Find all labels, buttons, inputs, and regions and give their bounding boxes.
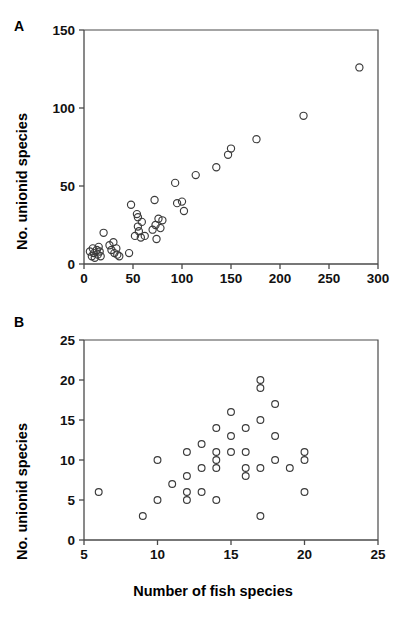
- data-point: [174, 200, 181, 207]
- data-point: [242, 425, 249, 432]
- data-point: [198, 489, 205, 496]
- data-point-group: [86, 64, 363, 262]
- data-point: [228, 409, 235, 416]
- data-point: [242, 465, 249, 472]
- data-point: [272, 401, 279, 408]
- data-point: [272, 457, 279, 464]
- y-tick-label: 25: [60, 333, 76, 348]
- x-tick-label: 250: [318, 271, 341, 286]
- y-tick-label: 20: [60, 373, 75, 388]
- panel-b-scatter-plot: 0510152025510152025: [0, 300, 406, 600]
- data-point: [169, 481, 176, 488]
- y-tick-label: 50: [60, 179, 75, 194]
- x-tick-label: 15: [223, 547, 239, 562]
- data-point: [151, 196, 158, 203]
- panel-a: A No. unionid species 050100150050100150…: [0, 0, 406, 300]
- y-tick-label: 15: [60, 413, 76, 428]
- y-tick-label: 0: [67, 533, 75, 548]
- x-tick-label: 0: [80, 271, 88, 286]
- plot-frame: [84, 30, 378, 264]
- panel-a-scatter-plot: 050100150050100150200250300: [0, 0, 406, 300]
- data-point: [356, 64, 363, 71]
- x-tick-label: 50: [125, 271, 140, 286]
- data-point: [300, 112, 307, 119]
- data-point: [153, 235, 160, 242]
- data-point: [139, 513, 146, 520]
- data-point: [127, 201, 134, 208]
- y-tick-label: 0: [67, 257, 75, 272]
- x-tick-label: 25: [370, 547, 386, 562]
- data-point: [184, 489, 191, 496]
- data-point: [242, 473, 249, 480]
- x-tick-label: 20: [297, 547, 312, 562]
- data-point: [301, 457, 308, 464]
- data-point: [242, 449, 249, 456]
- data-point: [272, 433, 279, 440]
- data-point: [198, 465, 205, 472]
- data-point: [154, 497, 161, 504]
- data-point: [138, 218, 145, 225]
- data-point: [180, 207, 187, 214]
- data-point: [228, 433, 235, 440]
- y-tick-label: 100: [52, 101, 75, 116]
- y-tick-label: 10: [60, 453, 75, 468]
- data-point: [257, 377, 264, 384]
- data-point: [100, 229, 107, 236]
- data-point: [95, 489, 102, 496]
- data-point: [227, 145, 234, 152]
- x-tick-label: 10: [150, 547, 165, 562]
- data-point: [213, 465, 220, 472]
- panel-b: B No. unionid species 051015202551015202…: [0, 300, 406, 619]
- data-point: [301, 449, 308, 456]
- x-axis-label: Number of fish species: [10, 583, 406, 599]
- data-point: [172, 179, 179, 186]
- x-tick-label: 100: [171, 271, 194, 286]
- data-point: [213, 457, 220, 464]
- x-tick-label: 5: [80, 547, 88, 562]
- data-point: [257, 513, 264, 520]
- data-point: [184, 473, 191, 480]
- data-point: [154, 457, 161, 464]
- data-point: [198, 441, 205, 448]
- data-point: [286, 465, 293, 472]
- data-point: [228, 449, 235, 456]
- plot-frame: [84, 340, 378, 540]
- data-point: [125, 249, 132, 256]
- data-point: [178, 198, 185, 205]
- figure-container: A No. unionid species 050100150050100150…: [0, 0, 406, 619]
- data-point: [213, 497, 220, 504]
- x-tick-label: 150: [220, 271, 243, 286]
- data-point: [253, 136, 260, 143]
- data-point: [301, 489, 308, 496]
- data-point: [184, 497, 191, 504]
- data-point: [213, 425, 220, 432]
- data-point: [257, 465, 264, 472]
- data-point: [192, 171, 199, 178]
- data-point-group: [95, 377, 308, 520]
- y-tick-label: 5: [67, 493, 75, 508]
- x-tick-label: 300: [367, 271, 390, 286]
- data-point: [184, 449, 191, 456]
- data-point: [257, 385, 264, 392]
- data-point: [213, 449, 220, 456]
- y-tick-label: 150: [52, 23, 75, 38]
- x-tick-label: 200: [269, 271, 292, 286]
- data-point: [257, 417, 264, 424]
- data-point: [213, 164, 220, 171]
